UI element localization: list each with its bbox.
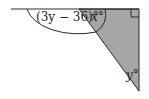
bottom-angle-label: y° xyxy=(125,68,139,82)
exterior-angle-label: (3y − 36)° xyxy=(36,10,99,24)
top-angle-label: x° xyxy=(91,10,104,24)
geometry-diagram: (3y − 36)° x° y° xyxy=(0,0,149,99)
